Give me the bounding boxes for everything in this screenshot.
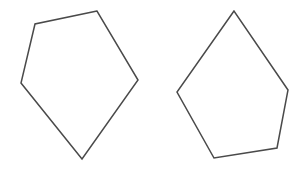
figure-background (0, 0, 295, 169)
shape-figure-canvas (0, 0, 295, 169)
